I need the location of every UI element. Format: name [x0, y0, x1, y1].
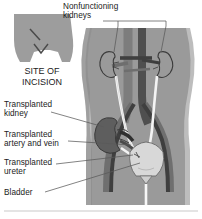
inset-torso-figure [14, 14, 73, 62]
figure-root: Nonfunctioning kidneys SITE OF INCISION … [0, 0, 202, 219]
inset-caption-site-of-incision: SITE OF INCISION [6, 66, 78, 88]
label-transplanted-artery-and-vein: Transplanted artery and vein [4, 130, 59, 149]
label-transplanted-ureter: Transplanted ureter [4, 158, 52, 177]
label-nonfunctioning-kidneys: Nonfunctioning kidneys [63, 2, 118, 21]
label-bladder: Bladder [4, 188, 33, 197]
label-transplanted-kidney: Transplanted kidney [4, 100, 52, 119]
